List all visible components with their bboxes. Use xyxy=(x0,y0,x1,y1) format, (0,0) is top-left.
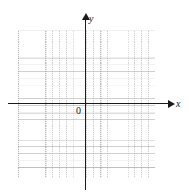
y-axis-line xyxy=(85,18,86,190)
origin-label: 0 xyxy=(76,106,81,116)
x-axis-label: x xyxy=(176,99,180,109)
x-axis-line xyxy=(8,103,170,104)
x-axis-arrow-icon xyxy=(168,100,175,108)
y-axis-label: y xyxy=(89,14,93,24)
coordinate-plane-figure: x y 0 xyxy=(0,0,189,192)
